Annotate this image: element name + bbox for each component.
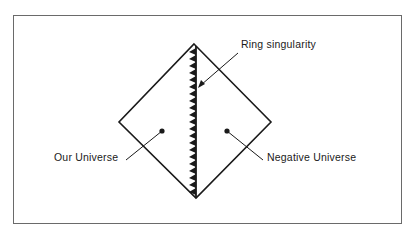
- singularity-sawtooth: [189, 48, 196, 195]
- penrose-diagram: [0, 0, 416, 242]
- arrowhead-icon: [198, 80, 205, 88]
- our-universe-label: Our Universe: [54, 151, 118, 163]
- ring-singularity-label: Ring singularity: [241, 38, 316, 50]
- negative-universe-label: Negative Universe: [267, 151, 356, 163]
